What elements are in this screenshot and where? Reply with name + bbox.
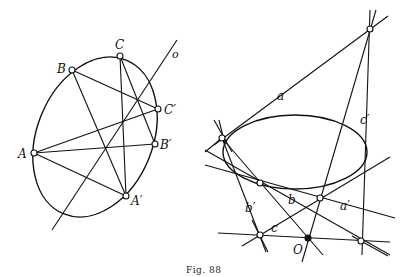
line-A-Cprime xyxy=(34,109,158,153)
label-C-prime: C′ xyxy=(164,103,176,117)
line-top-to-O xyxy=(302,10,376,262)
figure-88: A B C A′ B′ C′ o xyxy=(0,0,410,277)
point-A xyxy=(31,150,37,156)
label-a-prime: a′ xyxy=(340,199,350,213)
point-mid xyxy=(317,195,323,201)
right-ellipse xyxy=(223,115,367,189)
point-O xyxy=(305,235,311,241)
point-lower-tangent xyxy=(257,180,263,186)
label-C: C xyxy=(115,38,124,52)
point-bottom-left xyxy=(257,232,263,238)
line-c xyxy=(242,157,390,246)
label-A-prime: A′ xyxy=(130,194,143,208)
line-A-Bprime xyxy=(34,144,155,153)
label-c: c xyxy=(271,221,278,235)
point-top xyxy=(367,26,373,32)
line-A-Aprime xyxy=(34,153,126,196)
label-O: O xyxy=(293,243,303,257)
label-b: b xyxy=(288,193,296,207)
label-B-prime: B′ xyxy=(159,138,172,152)
point-left-vertex xyxy=(219,135,225,141)
right-figure: a b c a′ b′ c′ O xyxy=(205,10,395,262)
point-B-prime xyxy=(152,141,158,147)
line-c-prime xyxy=(362,10,370,255)
label-axis-o: o xyxy=(172,48,179,61)
line-B-Aprime xyxy=(72,70,126,196)
label-b-prime: b′ xyxy=(245,201,256,215)
label-B: B xyxy=(56,62,66,76)
point-C-prime xyxy=(155,106,161,112)
point-bottom-right xyxy=(358,238,364,244)
left-ellipse xyxy=(10,38,180,235)
line-C-Bprime xyxy=(120,56,155,144)
line-bottomright-stub xyxy=(352,236,388,256)
left-figure: A B C A′ B′ C′ o xyxy=(10,38,180,236)
label-A: A xyxy=(17,147,27,161)
label-a: a xyxy=(277,89,284,103)
point-A-prime xyxy=(123,193,129,199)
point-B xyxy=(69,67,75,73)
label-c-prime: c′ xyxy=(360,113,370,127)
figure-caption: Fig. 88 xyxy=(186,265,222,275)
point-C xyxy=(117,53,123,59)
line-lower-tangent xyxy=(205,165,395,218)
